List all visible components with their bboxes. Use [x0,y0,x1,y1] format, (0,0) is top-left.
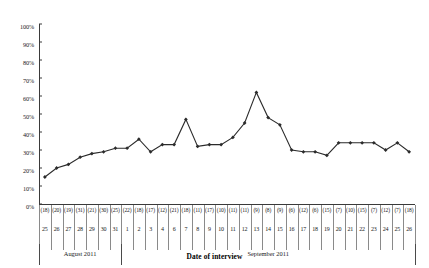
x-axis-date-label: 8 [192,226,204,232]
x-axis-date-label: 17 [298,226,310,232]
y-tick-label: 10% [23,177,39,195]
x-axis-count-label: (17) [204,208,216,214]
x-axis-date-label: 31 [110,226,122,232]
x-axis-count-label: (12) [157,208,169,214]
x-axis-count-label: (20) [51,208,63,214]
x-axis-count-label: (22) [121,208,133,214]
x-axis-count-label: (15) [356,208,368,214]
x-axis-separator [392,205,393,250]
x-axis-separator [168,205,169,250]
y-tick-text: 60% [23,95,34,102]
x-axis-count-label: (7) [392,208,404,214]
x-axis-separator [133,205,134,250]
x-axis-date-label: 27 [63,226,75,232]
x-axis-separator [321,205,322,250]
y-tick-label: 20% [23,159,39,177]
x-axis-count-label: (18) [133,208,145,214]
x-axis-separator [145,205,146,250]
x-axis-separator [298,205,299,250]
x-axis-separator [356,205,357,250]
y-tick-text: 70% [23,77,34,84]
x-axis-date-label: 2 [133,226,145,232]
data-point-marker [102,150,106,154]
x-axis-count-label: (10) [215,208,227,214]
x-axis-count-label: (11) [227,208,239,214]
x-axis-count-label: (31) [74,208,86,214]
x-axis-count-label: (15) [321,208,333,214]
x-axis-separator [251,205,252,250]
x-axis-date-label: 26 [403,226,415,232]
x-axis-separator [215,205,216,250]
y-tick-label: 40% [23,123,39,141]
x-axis-separator [262,205,263,250]
x-axis-date-label: 25 [39,226,51,232]
plot-area: 0%10%20%30%40%50%60%70%80%90%100% [39,24,415,204]
x-axis-date-label: 3 [145,226,157,232]
x-axis-count-label: (7) [333,208,345,214]
x-axis-date-label: 13 [251,226,263,232]
x-axis-count-label: (6) [309,208,321,214]
x-axis-date-label: 22 [356,226,368,232]
x-axis-count-label: (11) [239,208,251,214]
y-tick-label: 90% [23,33,39,51]
data-point-marker [360,141,364,145]
x-axis-count-label: (19) [63,208,75,214]
x-axis-date-label: 19 [321,226,333,232]
y-tick-text: 100% [20,23,34,30]
y-tick-label: 70% [23,69,39,87]
x-axis-separator [86,205,87,250]
data-point-marker [172,143,176,147]
data-point-marker [254,91,258,95]
x-axis-date-label: 6 [168,226,180,232]
x-axis-separator [157,205,158,250]
x-axis-date-label: 1 [121,226,133,232]
x-axis-separator [63,205,64,250]
x-axis-separator [403,205,404,250]
data-point-marker [184,118,188,122]
y-tick-label: 30% [23,141,39,159]
y-tick-text: 80% [23,59,34,66]
x-axis-date-label: 30 [98,226,110,232]
y-tick-text: 0% [26,203,34,210]
y-tick-label: 50% [23,105,39,123]
x-axis-separator [74,205,75,250]
data-point-marker [196,145,200,149]
y-tick-label: 100% [20,15,39,33]
x-axis-date-label: 26 [51,226,63,232]
x-axis-separator [239,205,240,250]
x-axis-separator [286,205,287,250]
x-axis-count-label: (11) [192,208,204,214]
x-axis-date-label: 16 [286,226,298,232]
y-tick-text: 10% [23,185,34,192]
data-point-marker [313,150,317,154]
x-axis-count-label: (18) [403,208,415,214]
x-axis-count-label: (9) [274,208,286,214]
x-axis-date-label: 28 [74,226,86,232]
y-tick-text: 20% [23,167,34,174]
x-axis-title: Date of interview [0,252,429,261]
x-axis-date-label: 21 [345,226,357,232]
data-series-line [39,24,415,204]
y-tick-text: 50% [23,113,34,120]
y-tick-label: 60% [23,87,39,105]
chart-root: 0%10%20%30%40%50%60%70%80%90%100% (18)25… [0,0,429,268]
x-axis-separator [309,205,310,250]
x-axis-separator [380,205,381,250]
x-axis-date-label: 12 [239,226,251,232]
x-axis-date-label: 24 [380,226,392,232]
x-axis-separator [333,205,334,250]
series-polyline [45,92,409,177]
y-tick-text: 30% [23,149,34,156]
x-axis-date-label: 7 [180,226,192,232]
x-axis-separator [51,205,52,250]
x-axis-date-label: 29 [86,226,98,232]
x-axis-date-label: 9 [204,226,216,232]
x-axis-separator [192,205,193,250]
x-axis-count-label: (9) [251,208,263,214]
y-tick-label: 0% [26,195,39,213]
x-axis-count-label: (12) [380,208,392,214]
x-axis-date-label: 10 [215,226,227,232]
x-axis-count-label: (18) [180,208,192,214]
x-axis-date-label: 18 [309,226,321,232]
x-axis-separator [180,205,181,250]
